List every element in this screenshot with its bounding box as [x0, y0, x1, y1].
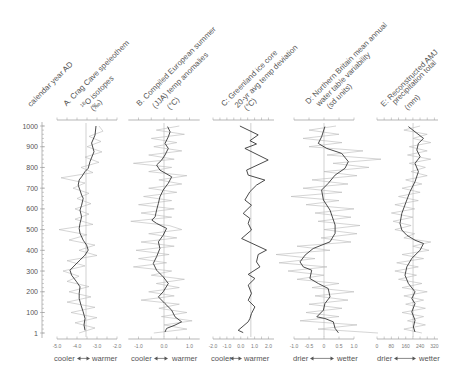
double-arrow-icon: [310, 356, 334, 360]
x-tick-label: 0.0: [237, 343, 244, 349]
panel-title-line: B. Compiled European summer: [135, 24, 219, 108]
y-tick-label: 800: [26, 164, 38, 171]
y-tick-label: 1000: [22, 123, 38, 130]
x-tick-label: -1.0: [134, 343, 143, 349]
x-tick-label: 1.0: [351, 343, 358, 349]
x-tick-label: -3.0: [93, 343, 102, 349]
y-tick-label: 100: [26, 309, 38, 316]
x-tick-label: 0: [376, 343, 379, 349]
title-text: 20-yr avg temp deviation: [233, 43, 300, 110]
arrow-head-right: [165, 356, 169, 360]
y-tick-label: 1: [34, 330, 38, 337]
direction-label-right: warmer: [243, 354, 270, 363]
x-tick-label: 240: [416, 343, 425, 349]
x-tick-label: -2.0: [113, 343, 122, 349]
direction-label-right: warmer: [91, 354, 118, 363]
direction-label-right: warmer: [171, 354, 198, 363]
y-tick-label: 300: [26, 268, 38, 275]
arrow-head-left: [310, 356, 314, 360]
direction-label-left: cooler: [131, 354, 152, 363]
x-tick-label: 1.0: [251, 343, 258, 349]
x-tick-label: -1.0: [290, 343, 299, 349]
x-tick-label: -5.0: [53, 343, 62, 349]
arrow-head-right: [413, 356, 417, 360]
y-tick-label: 700: [26, 185, 38, 192]
direction-label-left: cooler: [211, 354, 232, 363]
x-tick-label: 80: [389, 343, 395, 349]
direction-label-right: wetter: [336, 354, 358, 363]
arrow-head-left: [77, 356, 81, 360]
panel-B: B. Compiled European summer(JJA) temp an…: [128, 24, 218, 363]
direction-label-left: cooler: [54, 354, 75, 363]
panel-E: E: Reconstructed AMJprecipitation total(…: [376, 48, 441, 363]
raw-series-line: [391, 126, 430, 333]
x-tick-label: 0.0: [161, 343, 168, 349]
arrow-head-left: [154, 356, 158, 360]
x-tick-label: -4.0: [73, 343, 82, 349]
x-tick-label: 320: [430, 343, 439, 349]
x-tick-label: -2.0: [209, 343, 218, 349]
y-tick-label: 900: [26, 143, 38, 150]
raw-series-line: [59, 126, 103, 333]
raw-series-line: [131, 126, 192, 333]
panel-title-line: 20-yr avg temp deviation: [233, 43, 300, 110]
y-tick-label: 200: [26, 288, 38, 295]
direction-label-left: drier: [377, 354, 393, 363]
figure: 10009008007006005004003002001001calendar…: [0, 0, 454, 375]
arrow-head-right: [331, 356, 335, 360]
x-tick-label: 160: [402, 343, 411, 349]
title-text: B. Compiled European summer: [135, 24, 219, 108]
double-arrow-icon: [394, 356, 416, 360]
panel-D: D: Northern Britain mean annualwater tab…: [276, 20, 389, 363]
arrow-head-right: [239, 356, 243, 360]
smoothed-series-line: [70, 126, 96, 330]
x-tick-label: 2.0: [265, 343, 272, 349]
y-tick-label: 600: [26, 205, 38, 212]
arrow-head-left: [394, 356, 398, 360]
direction-label-left: drier: [293, 354, 309, 363]
x-tick-label: -1.0: [223, 343, 232, 349]
x-tick-label: 1.0: [186, 343, 193, 349]
panel-C: C: Greenland ice core20-yr avg temp devi…: [209, 43, 300, 363]
x-tick-label: -0.5: [305, 343, 314, 349]
y-tick-label: 400: [26, 247, 38, 254]
direction-label-right: wetter: [418, 354, 440, 363]
raw-series-line: [276, 126, 381, 333]
x-tick-label: 0: [323, 343, 326, 349]
panel-A: A. Crag Cave speleothem18O isotopes(‰)-5…: [53, 38, 131, 363]
double-arrow-icon: [77, 356, 90, 360]
arrow-head-right: [87, 356, 91, 360]
double-arrow-icon: [154, 356, 168, 360]
double-arrow-icon: [230, 356, 242, 360]
smoothed-series-line: [238, 126, 268, 333]
y-tick-label: 500: [26, 226, 38, 233]
x-tick-label: 0.5: [336, 343, 343, 349]
smoothed-series-line: [152, 127, 182, 332]
paleoclimate-multi-panel-chart: 10009008007006005004003002001001calendar…: [0, 0, 454, 375]
